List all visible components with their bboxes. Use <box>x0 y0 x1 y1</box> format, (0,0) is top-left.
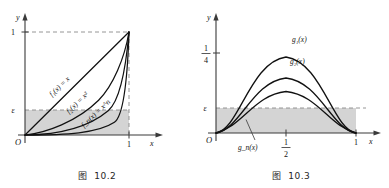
y-axis-arrow <box>22 13 27 21</box>
curve-label-g2: g₂(x) <box>290 57 305 66</box>
curve-label-f1: f₁(x) = x <box>47 74 72 98</box>
figure-panel-10-3: g₁(x) g₂(x) g_n(x) y x O ε 1 4 1 2 1 <box>194 0 388 188</box>
x-axis-arrow <box>374 130 382 135</box>
figure-caption-10-3: 图10.3 <box>194 169 388 182</box>
epsilon-label: ε <box>11 106 15 115</box>
caption-number: 10.3 <box>288 171 310 181</box>
y-axis-label: y <box>15 13 20 22</box>
half-denominator: 2 <box>284 150 288 159</box>
caption-label: 图 <box>272 171 282 181</box>
x-tick-label-half: 1 2 <box>282 138 291 159</box>
x-axis-label: x <box>368 137 373 146</box>
curve-label-g1: g₁(x) <box>292 35 307 44</box>
x-tick-label-1: 1 <box>127 140 131 149</box>
quarter-numerator: 1 <box>204 44 208 53</box>
x-tick-label-1: 1 <box>354 138 358 147</box>
origin-label: O <box>206 135 212 145</box>
quarter-denominator: 4 <box>204 56 208 65</box>
half-numerator: 1 <box>284 138 288 147</box>
figure-panel-10-2: f₁(x) = x f₂(x) = x² f_n(x) = x^n y x 1 … <box>0 0 194 188</box>
x-axis-arrow <box>156 132 164 137</box>
figure-caption-10-2: 图10.2 <box>0 169 194 182</box>
figure-pair: f₁(x) = x f₂(x) = x² f_n(x) = x^n y x 1 … <box>0 0 389 188</box>
y-axis-label: y <box>206 13 211 22</box>
y-tick-label-quarter: 1 4 <box>202 44 211 65</box>
caption-number: 10.2 <box>94 171 116 181</box>
caption-label: 图 <box>78 171 88 181</box>
origin-label: O <box>15 137 21 147</box>
plot-10-3: g₁(x) g₂(x) g_n(x) y x O ε 1 4 1 2 1 <box>194 0 389 160</box>
plot-10-2: f₁(x) = x f₂(x) = x² f_n(x) = x^n y x 1 … <box>0 0 194 160</box>
x-axis-label: x <box>149 139 154 148</box>
curve-label-gn: g_n(x) <box>238 143 258 152</box>
y-tick-label-1: 1 <box>11 28 15 37</box>
y-axis-arrow <box>213 13 218 21</box>
epsilon-label: ε <box>203 104 207 113</box>
